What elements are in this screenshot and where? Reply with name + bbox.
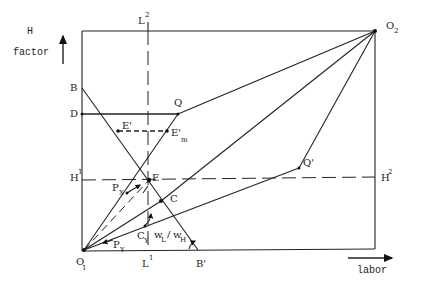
point-qprime (298, 167, 301, 170)
point-o1 (82, 248, 86, 252)
label-eprime-m: E' m (171, 127, 188, 144)
label-bprime: B' (196, 258, 206, 269)
line-q-o1 (84, 114, 178, 250)
svg-text:P: P (113, 239, 120, 250)
point-cy (144, 225, 147, 228)
label-wage-ratio: w L / w H (154, 229, 186, 244)
label-px: P X (112, 182, 124, 197)
svg-text:L: L (142, 258, 149, 269)
label-o1: O 1 (76, 256, 86, 272)
point-o2 (373, 29, 377, 33)
label-q: Q (174, 97, 182, 108)
line-o2-c (161, 31, 375, 201)
svg-text:O: O (386, 20, 394, 31)
svg-text:1: 1 (78, 168, 82, 176)
point-eprime-m (165, 129, 169, 133)
label-o2: O 2 (386, 20, 398, 35)
box-frame (82, 31, 375, 251)
svg-text:1: 1 (82, 264, 86, 272)
svg-text:Y: Y (143, 237, 149, 245)
svg-text:1: 1 (149, 254, 153, 262)
svg-text:P: P (112, 182, 119, 193)
label-h2: H 2 (381, 168, 392, 183)
line-o2-qprime (299, 31, 375, 168)
label-l1: L 1 (142, 254, 153, 269)
svg-text:2: 2 (394, 27, 398, 35)
h-line-dashed (82, 177, 375, 180)
point-q (177, 113, 180, 116)
point-px (126, 192, 129, 195)
point-e (147, 178, 151, 182)
svg-text:L: L (161, 236, 166, 244)
svg-text:2: 2 (145, 11, 149, 19)
point-d (81, 113, 84, 116)
svg-text:E': E' (171, 127, 181, 138)
line-q-o2 (178, 31, 375, 114)
label-py: P Y (113, 239, 125, 254)
point-c (159, 199, 163, 203)
svg-text:/: / (167, 229, 171, 240)
point-eprime (116, 129, 120, 133)
label-c: C (170, 193, 178, 204)
label-b: B (70, 82, 77, 93)
line-qprime-o1 (84, 168, 299, 250)
vertical-axis-label-h: H (27, 26, 33, 37)
svg-text:L: L (138, 15, 145, 26)
horizontal-axis-label: labor (357, 265, 387, 276)
label-h1: H 1 (70, 168, 82, 183)
label-eprime: E' (122, 120, 132, 131)
svg-text:m: m (181, 136, 188, 144)
label-cy: C Y (137, 230, 149, 245)
e-tick (143, 186, 148, 193)
label-e: E (152, 172, 159, 183)
svg-text:H: H (180, 236, 186, 244)
svg-text:2: 2 (388, 168, 392, 176)
label-d: D (70, 108, 78, 119)
vertical-axis-label-factor: factor (13, 47, 49, 58)
edgeworth-box-diagram: H factor labor O 2 O 1 (0, 0, 423, 288)
label-qprime: Q' (303, 157, 314, 168)
svg-text:X: X (119, 189, 124, 197)
svg-text:Y: Y (119, 246, 125, 254)
